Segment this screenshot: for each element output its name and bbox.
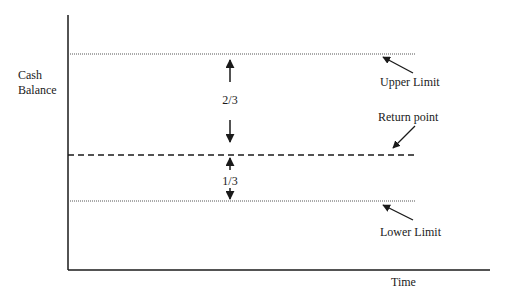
lower-limit-pointer-arrow — [383, 205, 413, 220]
upper-limit-pointer-arrow — [383, 57, 413, 73]
y-axis-label-line1: Cash — [18, 68, 42, 82]
x-axis-label: Time — [391, 275, 416, 289]
return-point-label: Return point — [378, 110, 439, 124]
diagram-canvas: Cash Balance Time 2/3 1/3 Upper Limit Re… — [0, 0, 505, 294]
lower-limit-label: Lower Limit — [380, 225, 442, 239]
span-upper-label: 2/3 — [222, 93, 237, 107]
upper-limit-label: Upper Limit — [380, 75, 440, 89]
y-axis-label-line2: Balance — [18, 83, 57, 97]
return-point-pointer-arrow — [393, 126, 415, 148]
span-lower-label: 1/3 — [222, 174, 237, 188]
